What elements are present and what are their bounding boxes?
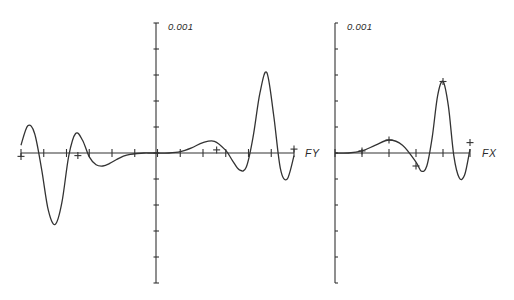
fy-curve [21, 72, 294, 225]
fx-axis-label: FX [482, 147, 496, 159]
fx-axes [335, 23, 470, 283]
chart-canvas [0, 0, 514, 300]
fx-scale-label: 0.001 [347, 21, 372, 32]
fx-chart [335, 23, 474, 283]
fy-axis-label: FY [305, 147, 319, 159]
fy-scale-label: 0.001 [168, 21, 193, 32]
fy-chart [18, 23, 298, 283]
fx-curve [335, 81, 470, 179]
